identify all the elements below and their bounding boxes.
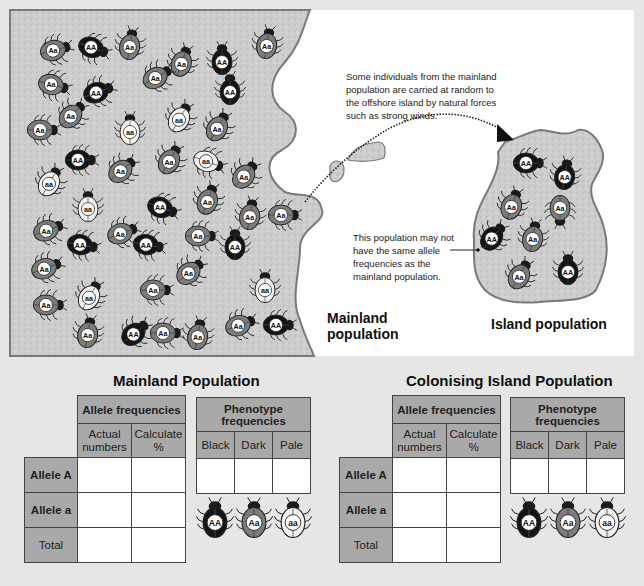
table-row: Total bbox=[25, 528, 186, 563]
island-dark-input[interactable] bbox=[549, 459, 587, 494]
row-header-total: Total bbox=[340, 528, 393, 563]
header-line: Phenotype bbox=[538, 403, 597, 415]
svg-text:Aa: Aa bbox=[148, 287, 158, 295]
svg-text:Aa: Aa bbox=[125, 44, 135, 52]
callout-line: Some individuals from the mainland bbox=[346, 70, 536, 83]
svg-text:Aa: Aa bbox=[83, 332, 93, 340]
header-line: frequencies bbox=[535, 415, 600, 427]
header-line: Actual bbox=[404, 428, 436, 440]
svg-text:Aa: Aa bbox=[46, 81, 56, 89]
mainland-phenotype-legend: AAAaaa bbox=[196, 492, 312, 542]
table-row: Allele a bbox=[25, 493, 186, 528]
island-phenotype-table: Phenotypefrequencies Black Dark Pale bbox=[510, 397, 625, 494]
svg-text:AA: AA bbox=[73, 157, 83, 165]
svg-text:AA: AA bbox=[559, 174, 569, 182]
island-black-input[interactable] bbox=[511, 459, 549, 494]
mainland-total-percent-input[interactable] bbox=[132, 528, 186, 563]
svg-text:Aa: Aa bbox=[528, 236, 538, 244]
svg-text:Aa: Aa bbox=[177, 61, 187, 69]
mainland-allele-A-actual-input[interactable] bbox=[78, 458, 132, 493]
dispersal-diagram: AaAAAaAaAAAaAaAAAaAAAaaaaaAaAaAAAaAaaaAa… bbox=[0, 0, 644, 360]
corner-blank bbox=[25, 424, 78, 458]
svg-text:aa: aa bbox=[84, 206, 93, 214]
callout-line: population are carried at random to bbox=[346, 83, 536, 96]
header-line: Actual bbox=[89, 428, 121, 440]
svg-text:Aa: Aa bbox=[239, 174, 249, 182]
header-line: frequencies bbox=[221, 415, 286, 427]
mainland-allele-a-actual-input[interactable] bbox=[78, 493, 132, 528]
mainland-pale-input[interactable] bbox=[273, 459, 311, 494]
svg-text:Aa: Aa bbox=[158, 330, 168, 338]
island-total-percent-input[interactable] bbox=[447, 528, 501, 563]
island-allele-a-actual-input[interactable] bbox=[393, 493, 447, 528]
svg-text:AA: AA bbox=[91, 90, 101, 98]
svg-text:AA: AA bbox=[155, 204, 165, 212]
row-header-allele-a: Allele a bbox=[340, 493, 393, 528]
mainland-dark-input[interactable] bbox=[235, 459, 273, 494]
svg-text:Aa: Aa bbox=[66, 113, 76, 121]
mainland-total-actual-input[interactable] bbox=[78, 528, 132, 563]
dark-column-header: Dark bbox=[235, 432, 273, 459]
mainland-allele-A-percent-input[interactable] bbox=[132, 458, 186, 493]
island-allele-a-percent-input[interactable] bbox=[447, 493, 501, 528]
black-beetle-icon: AA bbox=[510, 498, 548, 538]
svg-text:AA: AA bbox=[75, 242, 85, 250]
table-row: Allele A bbox=[25, 458, 186, 493]
svg-text:AA: AA bbox=[86, 44, 96, 52]
island-allele-A-percent-input[interactable] bbox=[447, 458, 501, 493]
svg-text:Aa: Aa bbox=[39, 266, 49, 274]
svg-text:AA: AA bbox=[523, 518, 535, 528]
label-line: Mainland bbox=[327, 310, 399, 326]
svg-text:Aa: Aa bbox=[41, 228, 51, 236]
svg-text:AA: AA bbox=[563, 269, 573, 277]
island-callout: This population may not have the same al… bbox=[353, 231, 463, 283]
svg-text:AA: AA bbox=[230, 244, 240, 252]
header-line: Calculate bbox=[450, 428, 498, 440]
header-line: numbers bbox=[397, 441, 442, 453]
corner-blank bbox=[340, 424, 393, 458]
mainland-population-label: Mainland population bbox=[327, 310, 399, 342]
calculate-percent-header: Calculate% bbox=[447, 424, 501, 458]
table-row: Allele A bbox=[340, 458, 501, 493]
dark-column-header: Dark bbox=[549, 432, 587, 459]
row-header-total: Total bbox=[25, 528, 78, 563]
mainland-allele-table: Allele frequencies Actualnumbers Calcula… bbox=[24, 395, 186, 563]
allele-header: Allele frequencies bbox=[78, 396, 186, 424]
svg-text:aa: aa bbox=[261, 287, 270, 295]
svg-text:aa: aa bbox=[602, 518, 612, 528]
svg-text:Aa: Aa bbox=[276, 212, 286, 220]
svg-text:Aa: Aa bbox=[116, 168, 126, 176]
row-header-allele-A: Allele A bbox=[340, 458, 393, 493]
svg-text:AA: AA bbox=[209, 518, 221, 528]
island-phenotype-legend: AAAaaa bbox=[510, 492, 626, 542]
allele-header: Allele frequencies bbox=[393, 396, 501, 424]
island-population-label: Island population bbox=[491, 316, 607, 332]
island-table-title: Colonising Island Population bbox=[406, 372, 613, 389]
black-column-header: Black bbox=[197, 432, 235, 459]
dispersal-illustration: AaAAAaAaAAAaAaAAAaAAAaaaaaAaAaAAAaAaaaAa… bbox=[0, 0, 644, 360]
callout-line: This population may not bbox=[353, 231, 463, 244]
mainland-allele-a-percent-input[interactable] bbox=[132, 493, 186, 528]
svg-text:AA: AA bbox=[271, 322, 281, 330]
table-row: Total bbox=[340, 528, 501, 563]
svg-text:Aa: Aa bbox=[193, 334, 203, 342]
dark-beetle-icon: Aa bbox=[235, 498, 273, 538]
actual-numbers-header: Actualnumbers bbox=[393, 424, 447, 458]
calculate-percent-header: Calculate% bbox=[132, 424, 186, 458]
island-allele-A-actual-input[interactable] bbox=[393, 458, 447, 493]
svg-text:aa: aa bbox=[85, 295, 94, 303]
island-pale-input[interactable] bbox=[587, 459, 625, 494]
svg-text:Aa: Aa bbox=[115, 231, 125, 239]
dark-beetle-icon: Aa bbox=[549, 498, 587, 538]
row-header-allele-A: Allele A bbox=[25, 458, 78, 493]
svg-text:Aa: Aa bbox=[203, 199, 213, 207]
header-line: Phenotype bbox=[224, 403, 283, 415]
mainland-black-input[interactable] bbox=[197, 459, 235, 494]
callout-line: the offshore island by natural forces bbox=[346, 96, 536, 109]
pale-beetle-icon: aa bbox=[274, 498, 312, 538]
islet-small bbox=[330, 161, 344, 182]
mainland-phenotype-table: Phenotypefrequencies Black Dark Pale bbox=[196, 397, 311, 494]
island-allele-table: Allele frequencies Actualnumbers Calcula… bbox=[339, 395, 501, 563]
header-line: Calculate bbox=[135, 428, 183, 440]
island-total-actual-input[interactable] bbox=[393, 528, 447, 563]
